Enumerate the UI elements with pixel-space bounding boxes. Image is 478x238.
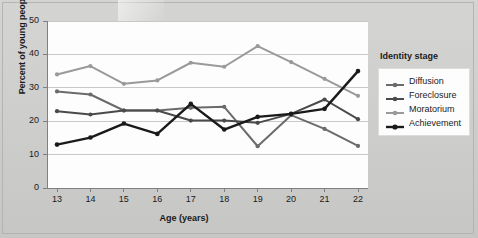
x-tick-label: 22	[346, 194, 370, 204]
y-tick-label: 20	[13, 115, 39, 125]
x-tick-label: 16	[145, 194, 169, 204]
legend-label: Diffusion	[409, 76, 444, 86]
legend-item-moratorium[interactable]: Moratorium	[383, 102, 465, 116]
plot-area	[47, 21, 368, 188]
legend: DiffusionForeclosureMoratoriumAchievemen…	[378, 68, 470, 136]
legend-label: Achievement	[409, 118, 461, 128]
x-tick-label: 20	[279, 194, 303, 204]
legend-item-diffusion[interactable]: Diffusion	[383, 74, 465, 88]
y-tick-label: 10	[13, 149, 39, 159]
y-tick-label: 40	[13, 48, 39, 58]
x-tick-label: 13	[45, 194, 69, 204]
y-tick-label: 30	[13, 82, 39, 92]
x-tick-label: 19	[246, 194, 270, 204]
x-tick-label: 14	[78, 194, 102, 204]
legend-label: Moratorium	[409, 104, 455, 114]
legend-marker-icon	[385, 118, 405, 128]
legend-item-achievement[interactable]: Achievement	[383, 116, 465, 130]
y-tick-label: 50	[13, 15, 39, 25]
legend-marker-icon	[385, 90, 405, 100]
legend-item-foreclosure[interactable]: Foreclosure	[383, 88, 465, 102]
x-tick-label: 21	[313, 194, 337, 204]
legend-marker-icon	[385, 76, 405, 86]
legend-label: Foreclosure	[409, 90, 457, 100]
series-lines	[47, 21, 368, 188]
x-tick-label: 15	[112, 194, 136, 204]
legend-marker-icon	[385, 104, 405, 114]
chart-figure: Percent of young people 01020304050 1314…	[0, 0, 478, 238]
legend-title: Identity stage	[380, 51, 438, 61]
x-tick-label: 17	[179, 194, 203, 204]
y-tick-label: 0	[13, 182, 39, 192]
x-tick-label: 18	[212, 194, 236, 204]
x-axis-title: Age (years)	[0, 213, 368, 223]
